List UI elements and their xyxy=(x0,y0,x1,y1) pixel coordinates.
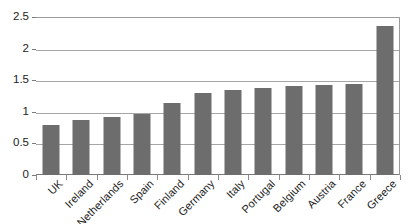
bar-slot xyxy=(309,17,339,175)
x-tick xyxy=(400,175,401,180)
y-axis-label-1: 1 xyxy=(0,106,29,118)
bar-slot xyxy=(127,17,157,175)
y-axis-label-2-5: 2.5 xyxy=(0,11,29,23)
bar-series xyxy=(36,17,400,175)
y-axis-label-0: 0 xyxy=(0,169,29,181)
bar-portugal[interactable] xyxy=(255,88,272,175)
bar-slot xyxy=(97,17,127,175)
y-axis-label-0-5: 0.5 xyxy=(0,137,29,149)
bar-slot xyxy=(188,17,218,175)
bar-slot xyxy=(36,17,66,175)
bar-slot xyxy=(339,17,369,175)
bar-belgium[interactable] xyxy=(285,86,302,175)
bar-finland[interactable] xyxy=(164,103,181,175)
bar-slot xyxy=(248,17,278,175)
y-axis-label-2: 2 xyxy=(0,43,29,55)
bar-germany[interactable] xyxy=(194,93,211,175)
bar-uk[interactable] xyxy=(43,125,60,175)
bar-greece[interactable] xyxy=(376,26,393,175)
bar-chart: 00.511.522.5 UKIrelandNetherlandsSpainFi… xyxy=(0,0,411,224)
bar-slot xyxy=(370,17,400,175)
bar-austria[interactable] xyxy=(316,85,333,175)
bar-france[interactable] xyxy=(346,84,363,175)
bar-netherlands[interactable] xyxy=(103,117,120,175)
bar-italy[interactable] xyxy=(225,90,242,175)
bar-spain[interactable] xyxy=(134,114,151,175)
x-axis-label-uk: UK xyxy=(42,178,65,201)
bar-slot xyxy=(66,17,96,175)
y-axis-label-1-5: 1.5 xyxy=(0,74,29,86)
x-axis-tick-labels: UKIrelandNetherlandsSpainFinlandGermanyI… xyxy=(36,176,400,224)
bar-slot xyxy=(157,17,187,175)
bar-ireland[interactable] xyxy=(73,120,90,175)
bar-slot xyxy=(218,17,248,175)
bar-slot xyxy=(279,17,309,175)
